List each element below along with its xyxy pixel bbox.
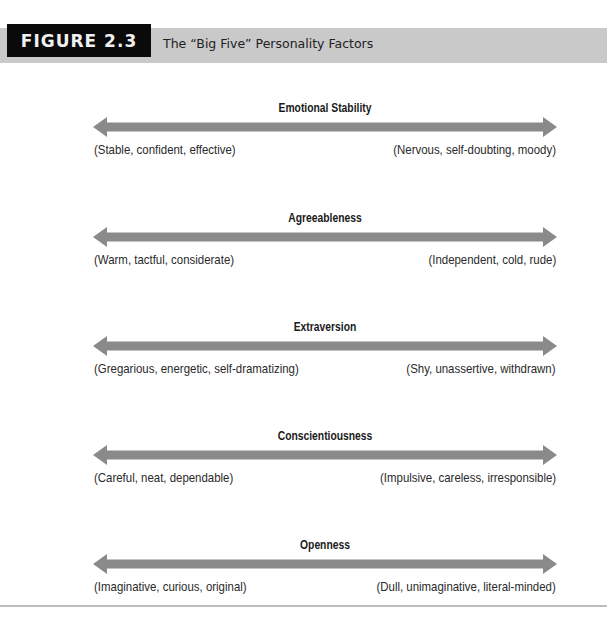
factor-title: Extraversion: [125, 320, 524, 334]
left-pole-label: (Warm, tactful, considerate): [94, 252, 234, 267]
factor-title: Conscientiousness: [125, 429, 524, 443]
right-pole-label: (Independent, cold, rude): [428, 252, 556, 267]
left-pole-label: (Stable, confident, effective): [94, 142, 236, 157]
double-arrow-icon: [93, 117, 557, 137]
factor-title: Openness: [125, 538, 524, 552]
double-arrow-icon: [93, 554, 557, 574]
factor-extraversion: Extraversion (Gregarious, energetic, sel…: [0, 320, 607, 400]
right-pole-label: (Shy, unassertive, withdrawn): [407, 361, 556, 376]
double-arrow-icon: [93, 227, 557, 247]
figure-label: FIGURE 2.3: [7, 24, 151, 57]
factor-title: Agreeableness: [125, 211, 524, 225]
right-pole-label: (Impulsive, careless, irresponsible): [380, 470, 556, 485]
double-arrow-icon: [93, 336, 557, 356]
double-arrow-icon: [93, 445, 557, 465]
factor-conscientiousness: Conscientiousness (Careful, neat, depend…: [0, 429, 607, 509]
left-pole-label: (Careful, neat, dependable): [94, 470, 233, 485]
factor-agreeableness: Agreeableness (Warm, tactful, considerat…: [0, 211, 607, 291]
left-pole-label: (Imaginative, curious, original): [94, 579, 247, 594]
left-pole-label: (Gregarious, energetic, self-dramatizing…: [94, 361, 299, 376]
right-pole-label: (Dull, unimaginative, literal-minded): [377, 579, 556, 594]
bottom-divider: [0, 605, 607, 607]
figure-subtitle: The “Big Five” Personality Factors: [163, 36, 373, 51]
factor-emotional-stability: Emotional Stability (Stable, confident, …: [0, 101, 607, 181]
factor-title: Emotional Stability: [125, 101, 524, 115]
right-pole-label: (Nervous, self-doubting, moody): [393, 142, 556, 157]
